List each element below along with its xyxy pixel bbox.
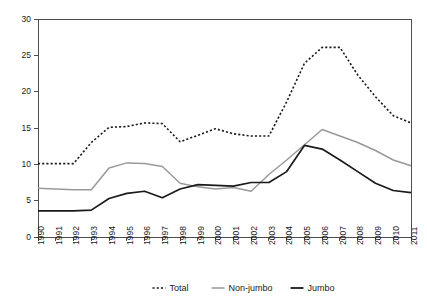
legend-label-jumbo: Jumbo bbox=[308, 283, 335, 293]
plot-frame bbox=[38, 19, 411, 237]
series-line-non-jumbo bbox=[38, 129, 411, 191]
legend-label-total: Total bbox=[170, 283, 189, 293]
x-tick-label: 1993 bbox=[89, 226, 99, 245]
x-tick-label: 2008 bbox=[355, 226, 365, 245]
y-axis: 051015202530 bbox=[22, 14, 38, 242]
line-chart: 051015202530 199019911992199319941995199… bbox=[0, 0, 427, 306]
chart-legend: TotalNon-jumboJumbo bbox=[153, 283, 335, 293]
x-tick-label: 1991 bbox=[54, 226, 64, 245]
x-tick-label: 2006 bbox=[320, 226, 330, 245]
x-tick-label: 1990 bbox=[36, 226, 46, 245]
chart-canvas: 051015202530 199019911992199319941995199… bbox=[0, 0, 427, 306]
x-axis: 1990199119921993199419951996199719981999… bbox=[36, 226, 419, 245]
y-tick-label: 10 bbox=[22, 159, 32, 169]
x-tick-label: 2001 bbox=[231, 226, 241, 245]
y-tick-label: 0 bbox=[26, 232, 31, 242]
x-tick-label: 2007 bbox=[338, 226, 348, 245]
y-tick-label: 25 bbox=[22, 50, 32, 60]
y-tick-label: 20 bbox=[22, 86, 32, 96]
x-tick-label: 1995 bbox=[125, 226, 135, 245]
series-line-jumbo bbox=[38, 145, 411, 210]
series-lines bbox=[38, 47, 411, 211]
x-tick-label: 2000 bbox=[213, 226, 223, 245]
x-tick-label: 1997 bbox=[160, 226, 170, 245]
y-tick-label: 5 bbox=[26, 195, 31, 205]
x-tick-label: 1999 bbox=[196, 226, 206, 245]
x-tick-label: 2002 bbox=[249, 226, 259, 245]
x-tick-label: 1996 bbox=[142, 226, 152, 245]
x-tick-label: 2005 bbox=[302, 226, 312, 245]
x-tick-label: 2003 bbox=[267, 226, 277, 245]
x-tick-label: 2011 bbox=[409, 226, 419, 245]
x-tick-label: 1998 bbox=[178, 226, 188, 245]
x-tick-label: 1994 bbox=[107, 226, 117, 245]
y-tick-label: 15 bbox=[22, 123, 32, 133]
legend-label-non-jumbo: Non-jumbo bbox=[229, 283, 273, 293]
x-tick-label: 2009 bbox=[373, 226, 383, 245]
y-tick-label: 30 bbox=[22, 14, 32, 24]
series-line-total bbox=[38, 47, 411, 163]
x-tick-label: 2004 bbox=[284, 226, 294, 245]
x-tick-label: 1992 bbox=[71, 226, 81, 245]
x-tick-label: 2010 bbox=[391, 226, 401, 245]
